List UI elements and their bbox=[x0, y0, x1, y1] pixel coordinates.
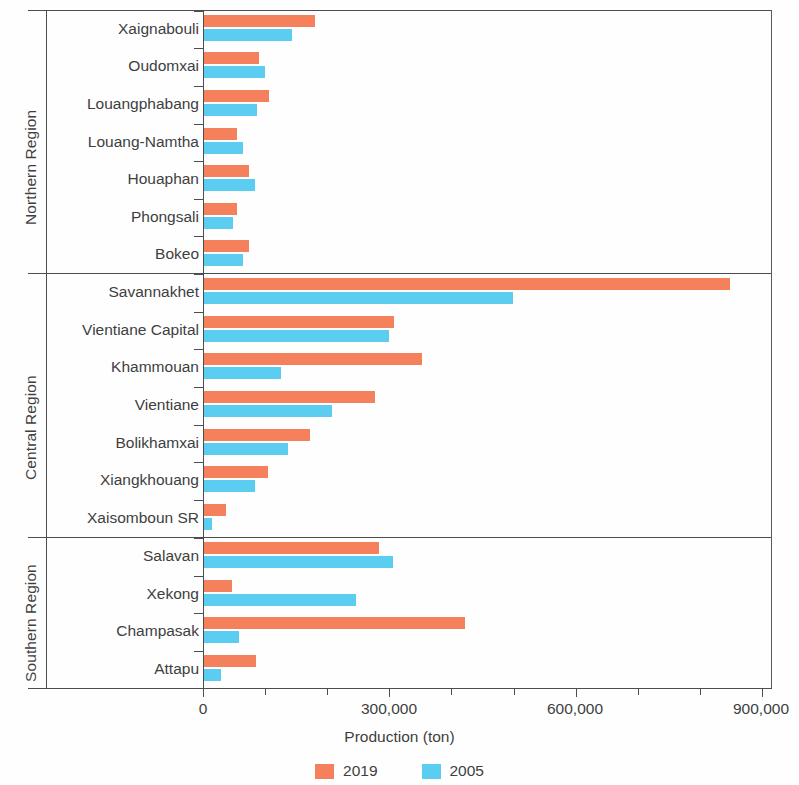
bar-2005-bolikhamxai bbox=[204, 443, 288, 455]
bar-2019-xekong bbox=[204, 580, 232, 592]
bar-2005-houaphan bbox=[204, 179, 255, 191]
bar-2019-attapu bbox=[204, 655, 256, 667]
bar-2005-oudomxai bbox=[204, 66, 265, 78]
table-row: Xekong bbox=[0, 576, 799, 612]
table-row: Houaphan bbox=[0, 161, 799, 197]
category-label-attapu: Attapu bbox=[0, 651, 199, 687]
bar-2019-louang-namtha bbox=[204, 128, 237, 140]
x-tick-400000 bbox=[451, 688, 452, 695]
table-row: Bolikhamxai bbox=[0, 425, 799, 461]
category-label-khammouan: Khammouan bbox=[0, 349, 199, 385]
bar-2005-salavan bbox=[204, 556, 393, 568]
xtick-label-300000: 300,000 bbox=[361, 700, 417, 718]
table-row: Vientiane bbox=[0, 387, 799, 423]
bar-2019-xaignabouli bbox=[204, 15, 315, 27]
bar-2005-louang-namtha bbox=[204, 142, 243, 154]
bar-2019-xiangkhouang bbox=[204, 466, 268, 478]
category-label-xaignabouli: Xaignabouli bbox=[0, 11, 199, 47]
bar-2005-attapu bbox=[204, 669, 221, 681]
x-tick-0 bbox=[203, 688, 204, 697]
category-label-houaphan: Houaphan bbox=[0, 161, 199, 197]
category-label-xekong: Xekong bbox=[0, 576, 199, 612]
category-label-champasak: Champasak bbox=[0, 613, 199, 649]
bar-2019-salavan bbox=[204, 542, 379, 554]
x-tick-600000 bbox=[576, 688, 577, 697]
chart-page: Northern Region Central Region Southern … bbox=[0, 0, 799, 785]
bar-2005-xaignabouli bbox=[204, 29, 292, 41]
table-row: Xaisomboun SR bbox=[0, 500, 799, 536]
category-label-louang-namtha: Louang-Namtha bbox=[0, 124, 199, 160]
legend-item-2019[interactable]: 2019 bbox=[315, 762, 377, 780]
x-tick-100000 bbox=[265, 688, 266, 695]
x-tick-800000 bbox=[700, 688, 701, 695]
bar-2005-vientiane bbox=[204, 405, 332, 417]
legend-label-2005: 2005 bbox=[450, 762, 484, 780]
xtick-label-600000: 600,000 bbox=[547, 700, 603, 718]
chart-legend: 2019 2005 bbox=[0, 762, 799, 780]
bar-2005-savannakhet bbox=[204, 292, 513, 304]
table-row: Phongsali bbox=[0, 199, 799, 235]
legend-swatch-2019 bbox=[315, 764, 334, 779]
category-label-bokeo: Bokeo bbox=[0, 236, 199, 272]
category-label-bolikhamxai: Bolikhamxai bbox=[0, 425, 199, 461]
table-row: Vientiane Capital bbox=[0, 312, 799, 348]
category-label-xiangkhouang: Xiangkhouang bbox=[0, 462, 199, 498]
bar-2019-louangphabang bbox=[204, 90, 269, 102]
category-label-louangphabang: Louangphabang bbox=[0, 86, 199, 122]
table-row: Champasak bbox=[0, 613, 799, 649]
category-label-salavan: Salavan bbox=[0, 538, 199, 574]
bar-2019-khammouan bbox=[204, 353, 422, 365]
bar-2019-vientiane-capital bbox=[204, 316, 394, 328]
table-row: Louang-Namtha bbox=[0, 124, 799, 160]
bar-2005-xiangkhouang bbox=[204, 480, 255, 492]
bar-2019-phongsali bbox=[204, 203, 237, 215]
bar-2005-bokeo bbox=[204, 254, 243, 266]
bar-2005-vientiane-capital bbox=[204, 330, 389, 342]
bar-2019-bolikhamxai bbox=[204, 429, 310, 441]
table-row: Savannakhet bbox=[0, 274, 799, 310]
bar-2019-houaphan bbox=[204, 165, 249, 177]
bar-2019-oudomxai bbox=[204, 52, 259, 64]
bar-2019-bokeo bbox=[204, 240, 249, 252]
bar-2019-xaisomboun-sr bbox=[204, 504, 226, 516]
table-row: Louangphabang bbox=[0, 86, 799, 122]
bar-2005-xekong bbox=[204, 594, 356, 606]
x-tick-200000 bbox=[327, 688, 328, 695]
category-label-oudomxai: Oudomxai bbox=[0, 48, 199, 84]
bar-2005-phongsali bbox=[204, 217, 233, 229]
legend-item-2005[interactable]: 2005 bbox=[422, 762, 484, 780]
bar-2005-champasak bbox=[204, 631, 239, 643]
bar-2005-xaisomboun-sr bbox=[204, 518, 212, 530]
x-tick-300000 bbox=[389, 688, 390, 697]
bar-2005-khammouan bbox=[204, 367, 281, 379]
x-tick-700000 bbox=[638, 688, 639, 695]
table-row: Xiangkhouang bbox=[0, 462, 799, 498]
category-label-vientiane-capital: Vientiane Capital bbox=[0, 312, 199, 348]
category-label-phongsali: Phongsali bbox=[0, 199, 199, 235]
bar-2019-champasak bbox=[204, 617, 465, 629]
bar-2005-louangphabang bbox=[204, 104, 257, 116]
table-row: Xaignabouli bbox=[0, 11, 799, 47]
category-label-vientiane: Vientiane bbox=[0, 387, 199, 423]
bar-2019-savannakhet bbox=[204, 278, 730, 290]
grouped-bar-chart: Northern Region Central Region Southern … bbox=[0, 0, 799, 785]
x-tick-500000 bbox=[514, 688, 515, 695]
x-axis-title: Production (ton) bbox=[0, 728, 799, 746]
table-row: Oudomxai bbox=[0, 48, 799, 84]
x-tick-900000 bbox=[762, 688, 763, 697]
table-row: Bokeo bbox=[0, 236, 799, 272]
legend-swatch-2005 bbox=[422, 764, 441, 779]
table-row: Khammouan bbox=[0, 349, 799, 385]
legend-label-2019: 2019 bbox=[343, 762, 377, 780]
category-label-xaisomboun-sr: Xaisomboun SR bbox=[0, 500, 199, 536]
category-label-savannakhet: Savannakhet bbox=[0, 274, 199, 310]
xtick-label-900000: 900,000 bbox=[733, 700, 789, 718]
x-axis-line bbox=[28, 688, 772, 689]
table-row: Salavan bbox=[0, 538, 799, 574]
table-row: Attapu bbox=[0, 651, 799, 687]
bar-2019-vientiane bbox=[204, 391, 375, 403]
xtick-label-0: 0 bbox=[199, 700, 208, 718]
